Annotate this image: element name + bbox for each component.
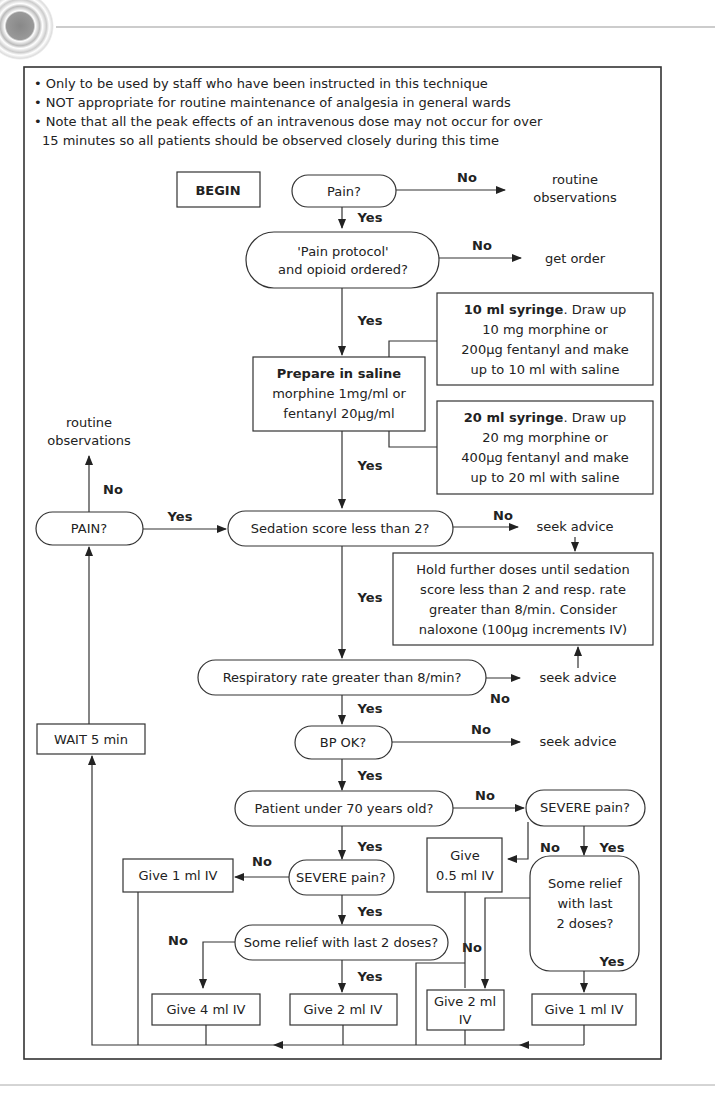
severe-right-yes-label: Yes bbox=[599, 840, 625, 855]
hold-line2: score less than 2 and resp. rate bbox=[420, 582, 626, 597]
under-70-label: Patient under 70 years old? bbox=[255, 801, 434, 816]
respiratory-no-label: No bbox=[490, 691, 510, 706]
bp-ok-label: BP OK? bbox=[320, 735, 367, 750]
hold-line4: naloxone (100μg increments IV) bbox=[419, 622, 627, 637]
under-70-no-label: No bbox=[475, 788, 495, 803]
severe-mid-yes-label: Yes bbox=[357, 904, 383, 919]
routine-observations-top: routine bbox=[552, 172, 598, 187]
prepare-saline-line2: fentanyl 20μg/ml bbox=[283, 406, 394, 421]
pain-caps-label: PAIN? bbox=[71, 521, 107, 536]
severe-right-no-arrow bbox=[508, 822, 528, 859]
syringe-10ml-line3: 200μg fentanyl and make bbox=[461, 342, 628, 357]
respiratory-yes-label: Yes bbox=[357, 701, 383, 716]
get-order-label: get order bbox=[545, 251, 606, 266]
pain-caps-yes-label: Yes bbox=[167, 509, 193, 524]
sedation-yes-label: Yes bbox=[357, 590, 383, 605]
some-relief-mid-label: Some relief with last 2 doses? bbox=[244, 935, 438, 950]
pain-no-label: No bbox=[457, 170, 477, 185]
relief-right-no-arrow bbox=[485, 898, 530, 988]
give-2ml-right-line2: IV bbox=[459, 1012, 472, 1027]
seek-advice-bp: seek advice bbox=[539, 734, 616, 749]
pain-yes-label: Yes bbox=[357, 210, 383, 225]
give-0-5ml-line2: 0.5 ml IV bbox=[436, 868, 494, 883]
routine-observations-left-line2: observations bbox=[47, 433, 131, 448]
seek-advice-respiratory: seek advice bbox=[539, 670, 616, 685]
give-4ml-label: Give 4 ml IV bbox=[166, 1002, 245, 1017]
syringe-20ml-line1: 20 ml syringe. Draw up bbox=[464, 410, 626, 425]
syringe-10ml-line1: 10 ml syringe. Draw up bbox=[464, 302, 626, 317]
some-relief-right-line2: with last bbox=[557, 896, 612, 911]
hold-line3: greater than 8/min. Consider bbox=[429, 602, 618, 617]
relief-mid-no-arrow bbox=[203, 942, 235, 988]
prepare-saline-line1: morphine 1mg/ml or bbox=[272, 386, 406, 401]
flowchart-diagram: BEGIN Pain? No routine observations Yes … bbox=[0, 0, 715, 1105]
give-0-5ml-box bbox=[427, 838, 502, 892]
give-2ml-right-line1: Give 2 ml bbox=[434, 994, 496, 1009]
bp-no-label: No bbox=[471, 722, 491, 737]
protocol-decision bbox=[246, 232, 439, 288]
respiratory-label: Respiratory rate greater than 8/min? bbox=[223, 670, 462, 685]
some-relief-right-line1: Some relief bbox=[548, 876, 622, 891]
bp-yes-label: Yes bbox=[357, 768, 383, 783]
give-2ml-mid-label: Give 2 ml IV bbox=[303, 1002, 382, 1017]
syringe-20ml-line2: 20 mg morphine or bbox=[482, 430, 608, 445]
hold-line1: Hold further doses until sedation bbox=[416, 562, 629, 577]
severe-pain-mid-label: SEVERE pain? bbox=[296, 870, 386, 885]
sedation-label: Sedation score less than 2? bbox=[251, 521, 430, 536]
pain-decision-label: Pain? bbox=[327, 184, 361, 199]
relief-right-yes-label: Yes bbox=[599, 954, 625, 969]
syringe-20ml-line4: up to 20 ml with saline bbox=[471, 470, 620, 485]
begin-label: BEGIN bbox=[195, 183, 240, 198]
protocol-label-1: 'Pain protocol' bbox=[297, 244, 388, 259]
syringe-10ml-line4: up to 10 ml with saline bbox=[471, 362, 620, 377]
protocol-label-2: and opioid ordered? bbox=[278, 262, 408, 277]
flowchart-page: • Only to be used by staff who have been… bbox=[0, 0, 715, 1105]
sedation-no-label: No bbox=[493, 508, 513, 523]
severe-mid-no-label: No bbox=[252, 854, 272, 869]
protocol-yes-label: Yes bbox=[357, 313, 383, 328]
routine-observations-top-line2: observations bbox=[533, 190, 617, 205]
pain-caps-no-label: No bbox=[103, 482, 123, 497]
wait-label: WAIT 5 min bbox=[54, 732, 128, 747]
routine-observations-left: routine bbox=[66, 415, 112, 430]
give-0-5ml-line1: Give bbox=[450, 848, 479, 863]
seek-advice-sedation: seek advice bbox=[536, 519, 613, 534]
severe-right-no-label: No bbox=[540, 840, 560, 855]
severe-pain-right-label: SEVERE pain? bbox=[540, 800, 630, 815]
prepare-yes-label: Yes bbox=[357, 458, 383, 473]
syringe-10ml-connector bbox=[389, 341, 437, 357]
prepare-saline-title: Prepare in saline bbox=[277, 366, 402, 381]
under-70-yes-label: Yes bbox=[357, 839, 383, 854]
relief-mid-yes-label: Yes bbox=[357, 969, 383, 984]
syringe-10ml-line2: 10 mg morphine or bbox=[482, 322, 608, 337]
protocol-no-label: No bbox=[472, 238, 492, 253]
give-1ml-right-label: Give 1 ml IV bbox=[544, 1002, 623, 1017]
syringe-20ml-connector bbox=[389, 431, 437, 447]
some-relief-right-line3: 2 doses? bbox=[556, 916, 613, 931]
header-target-logo-icon bbox=[0, 0, 54, 60]
give-1ml-left-label: Give 1 ml IV bbox=[138, 868, 217, 883]
syringe-20ml-line3: 400μg fentanyl and make bbox=[461, 450, 628, 465]
relief-mid-no-label: No bbox=[168, 933, 188, 948]
